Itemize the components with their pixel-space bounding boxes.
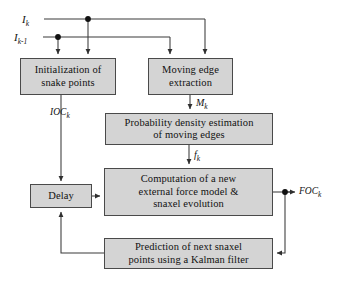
block-probability-density-estimation[interactable]: Probability density estimation of moving… xyxy=(105,113,273,145)
block-kalman-prediction[interactable]: Prediction of next snaxel points using a… xyxy=(104,238,273,269)
signal-label-i-k: Ik xyxy=(22,13,29,28)
block-initialization-of-snake-points[interactable]: Initialization of snake points xyxy=(20,58,116,95)
block-computation-label: Computation of a new external force mode… xyxy=(137,173,241,210)
block-kalman-label: Prediction of next snaxel points using a… xyxy=(126,241,250,266)
signal-label-ioc-k: IOCk xyxy=(50,107,70,120)
block-diagram: Initialization of snake points Moving ed… xyxy=(0,0,338,287)
block-moving-edge-label: Moving edge extraction xyxy=(160,64,221,89)
block-moving-edge-extraction[interactable]: Moving edge extraction xyxy=(148,58,233,95)
wire-kalman-to-delay xyxy=(61,212,104,253)
signal-label-i-k-minus-1: Ik-1 xyxy=(14,31,27,46)
block-delay-label: Delay xyxy=(46,190,76,202)
junction-dot-foc xyxy=(282,189,288,195)
block-delay[interactable]: Delay xyxy=(30,184,92,208)
signal-label-m-k: Mk xyxy=(196,97,208,111)
signal-label-f-k: fk xyxy=(194,149,200,163)
signal-label-foc-k: FOCk xyxy=(299,186,321,199)
junction-dot-ik xyxy=(85,16,91,22)
block-computation-external-force-model[interactable]: Computation of a new external force mode… xyxy=(104,168,273,216)
block-probability-label: Probability density estimation of moving… xyxy=(123,117,256,142)
block-initialization-label: Initialization of snake points xyxy=(33,64,104,89)
wire-comp-to-kalman xyxy=(277,192,285,253)
junction-dot-ik1 xyxy=(55,34,61,40)
